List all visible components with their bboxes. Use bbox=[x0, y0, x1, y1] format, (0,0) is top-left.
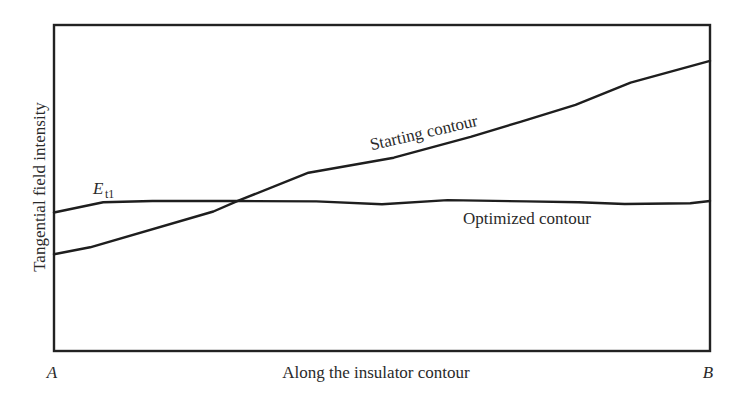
plot-frame bbox=[54, 25, 710, 351]
plot-canvas: Tangential field intensity Along the ins… bbox=[0, 0, 737, 398]
field-intensity-figure: Tangential field intensity Along the ins… bbox=[0, 0, 737, 398]
optimized-contour-label: Optimized contour bbox=[463, 209, 591, 228]
endpoint-b-label: B bbox=[703, 363, 714, 382]
optimized-contour-curve bbox=[54, 200, 710, 212]
et1-annotation: E t1 bbox=[92, 179, 114, 201]
et1-subscript: t1 bbox=[105, 187, 114, 201]
y-axis-label: Tangential field intensity bbox=[30, 102, 49, 272]
endpoint-a-label: A bbox=[46, 363, 58, 382]
starting-contour-label: Starting contour bbox=[368, 111, 480, 154]
et1-main: E bbox=[92, 179, 104, 198]
starting-contour-curve bbox=[54, 61, 710, 254]
x-axis-label: Along the insulator contour bbox=[282, 363, 470, 382]
